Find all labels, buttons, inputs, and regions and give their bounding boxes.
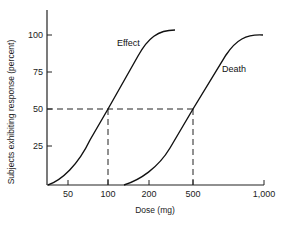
x-tick-labels: 50 100 200 500 1,000 [63, 189, 275, 199]
x-tick-label: 100 [100, 189, 115, 199]
y-axis-title: Subjects exhibiting response (percent) [6, 40, 16, 185]
effect-curve [48, 30, 175, 185]
y-tick-label: 25 [33, 141, 43, 151]
effect-label: Effect [117, 38, 140, 48]
y-tick-label: 100 [28, 30, 43, 40]
y-tick-label: 50 [33, 104, 43, 114]
y-ticks [47, 35, 52, 146]
y-tick-labels: 100 75 50 25 [28, 30, 43, 151]
x-tick-label: 50 [63, 189, 73, 199]
x-axis-title: Dose (mg) [135, 205, 175, 215]
x-tick-label: 200 [141, 189, 156, 199]
x-tick-label: 1,000 [253, 189, 276, 199]
dose-response-chart: 100 75 50 25 50 100 200 500 1,000 Dose (… [0, 0, 286, 226]
x-ticks [68, 180, 264, 185]
x-tick-label: 500 [185, 189, 200, 199]
y-tick-label: 75 [33, 67, 43, 77]
death-label: Death [222, 64, 246, 74]
